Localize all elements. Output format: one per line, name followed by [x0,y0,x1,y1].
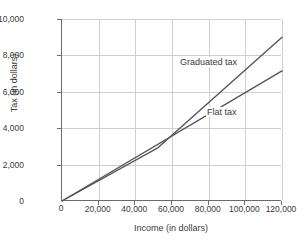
chart-figure: 02,0004,0006,0008,00010,000 020,00040,00… [0,0,308,241]
x-tick-mark [208,201,209,205]
series-lines [62,19,282,201]
plot-area [61,19,281,201]
series-line-graduated-tax [62,37,282,201]
x-tick-mark [281,201,282,205]
x-tick-label: 120,000 [258,205,304,214]
y-tick-label: 2,000 [0,161,24,170]
x-tick-mark [244,201,245,205]
x-tick-mark [134,201,135,205]
series-label-graduated-tax: Graduated tax [179,57,238,67]
series-line-flat-tax [62,71,282,201]
gridline-vertical [282,19,283,200]
x-tick-mark [171,201,172,205]
y-axis-title: Tax (in dollars) [9,28,19,138]
x-tick-mark [98,201,99,205]
y-tick-label: 10,000 [0,15,24,24]
series-label-flat-tax: Flat tax [206,107,238,117]
x-axis-title: Income (in dollars) [61,223,281,233]
y-tick-label: 0 [0,197,24,206]
